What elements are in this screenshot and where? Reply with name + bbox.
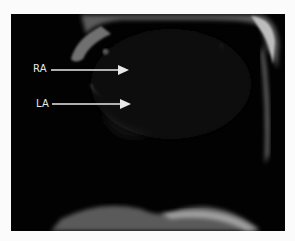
- mri-image-panel: RA LA: [11, 14, 285, 231]
- ra-label: RA: [33, 64, 47, 74]
- right-arrow-icon: [52, 98, 132, 110]
- mri-anatomy: [11, 14, 285, 231]
- right-arrow-icon: [51, 64, 131, 76]
- la-label: LA: [36, 99, 49, 109]
